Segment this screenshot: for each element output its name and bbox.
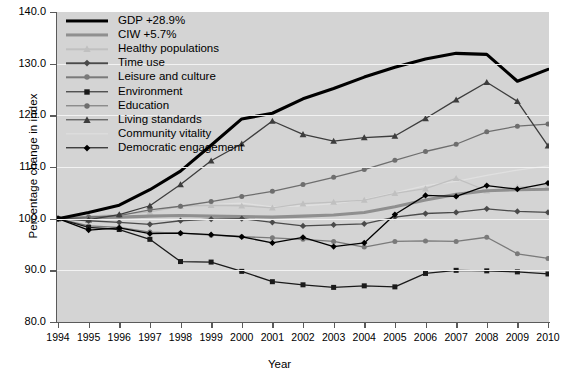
legend-label: Environment (118, 86, 183, 98)
legend-marker-square-icon (81, 86, 93, 98)
data-point (362, 283, 367, 288)
legend-line-swatch (66, 34, 108, 37)
data-point (83, 46, 90, 53)
data-point (209, 260, 214, 265)
data-point (331, 243, 337, 249)
data-point (331, 175, 336, 180)
data-point (178, 204, 183, 209)
legend-marker-diamond-icon (81, 142, 93, 154)
data-point (147, 202, 154, 208)
x-tick (119, 323, 120, 328)
data-point (270, 235, 275, 240)
data-point (484, 129, 489, 134)
y-tick-label: 90.0 (0, 263, 46, 275)
data-point (269, 219, 275, 225)
data-point (269, 240, 275, 246)
legend-marker-triangle-icon (81, 114, 93, 126)
data-point (515, 124, 520, 129)
data-point (116, 219, 122, 225)
data-point (361, 221, 367, 227)
x-tick-label: 2010 (528, 331, 564, 343)
y-tick (50, 219, 56, 220)
data-point (177, 230, 183, 236)
data-point (423, 149, 428, 154)
data-point (239, 194, 244, 199)
legend-label: Living standards (118, 114, 202, 126)
data-point (453, 209, 459, 215)
x-tick (181, 323, 182, 328)
legend-label: Leisure and culture (118, 72, 216, 84)
data-point (422, 192, 428, 198)
data-point (422, 210, 428, 216)
legend-label: GDP +28.9% (118, 15, 185, 27)
y-tick-label: 140.0 (0, 5, 46, 17)
data-point (514, 208, 520, 214)
y-tick (50, 12, 56, 13)
data-point (178, 259, 183, 264)
x-tick (364, 323, 365, 328)
gridline (57, 167, 549, 168)
data-point (453, 175, 460, 181)
y-tick-label: 110.0 (0, 160, 46, 172)
gridline (57, 270, 549, 271)
data-point (300, 223, 306, 229)
y-tick (50, 322, 56, 323)
data-point (84, 103, 89, 108)
y-tick-label: 80.0 (0, 315, 46, 327)
data-point (454, 239, 459, 244)
x-tick (272, 323, 273, 328)
data-point (331, 239, 336, 244)
gridline (57, 219, 549, 220)
legend-label: Time use (118, 58, 165, 70)
x-tick (426, 323, 427, 328)
data-point (454, 142, 459, 147)
x-tick (58, 323, 59, 328)
data-point (147, 221, 153, 227)
legend-label: Education (118, 100, 169, 112)
y-tick-label: 100.0 (0, 212, 46, 224)
data-point (239, 234, 245, 240)
x-tick (456, 323, 457, 328)
data-point (423, 271, 428, 276)
data-point (546, 122, 550, 127)
legend-label: Democratic engagement (118, 142, 243, 154)
x-tick (242, 323, 243, 328)
legend-label: Community vitality (118, 128, 211, 140)
x-axis-title: Year (0, 358, 559, 370)
legend-label: Healthy populations (118, 43, 219, 55)
x-tick (487, 323, 488, 328)
data-point (270, 189, 275, 194)
x-tick (517, 323, 518, 328)
data-point (514, 98, 521, 104)
data-point (301, 282, 306, 287)
y-tick (50, 115, 56, 116)
data-point (208, 232, 214, 238)
data-point (453, 96, 460, 102)
y-tick-label: 120.0 (0, 108, 46, 120)
data-point (84, 145, 91, 152)
data-point (546, 271, 550, 276)
data-point (147, 237, 152, 242)
data-point (546, 256, 550, 261)
data-point (515, 251, 520, 256)
legend-line-swatch (66, 20, 108, 23)
data-point (301, 182, 306, 187)
data-point (483, 79, 490, 85)
y-axis-line (56, 12, 57, 323)
x-tick (303, 323, 304, 328)
legend-label: CIW +5.7% (118, 29, 176, 41)
data-point (269, 118, 276, 124)
data-point (84, 89, 89, 94)
legend-marker-triangle-icon (81, 43, 93, 55)
y-tick (50, 64, 56, 65)
data-point (208, 157, 215, 163)
x-tick (211, 323, 212, 328)
x-tick (395, 323, 396, 328)
data-point (392, 239, 397, 244)
data-point (331, 222, 337, 228)
legend-marker-circle-icon (81, 100, 93, 112)
y-tick-label: 130.0 (0, 57, 46, 69)
data-point (84, 60, 91, 67)
data-point (209, 199, 214, 204)
data-point (545, 209, 549, 215)
